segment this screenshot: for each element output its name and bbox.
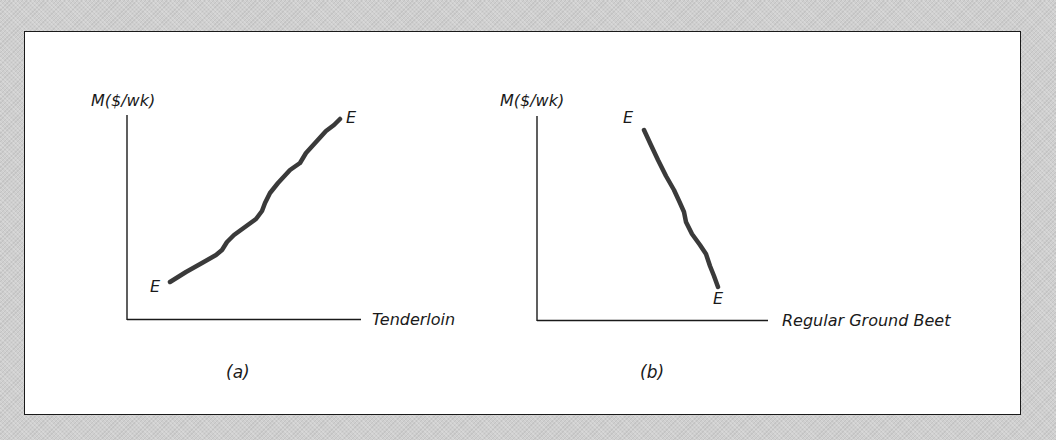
panel-a-curve-start-label: E: [150, 277, 160, 296]
panel-b-x-axis-label: Regular Ground Beet: [782, 311, 950, 330]
panel-a-x-axis-label: Tenderloin: [372, 310, 455, 329]
panel-a-engel-curve: [170, 119, 340, 282]
panel-a-axes: [127, 115, 361, 320]
panel-b-curve-end-label: E: [713, 289, 723, 308]
panel-a-y-axis-label: M($/wk): [91, 91, 155, 110]
panel-a-caption: (a): [226, 362, 250, 382]
panel-a-curve-end-label: E: [346, 108, 356, 127]
panel-b-curve-start-label: E: [623, 108, 633, 127]
panel-b-engel-curve: [644, 130, 718, 287]
panel-b-y-axis-label: M($/wk): [500, 91, 564, 110]
figure-drawing: [0, 0, 1056, 440]
panel-b-caption: (b): [640, 362, 664, 382]
